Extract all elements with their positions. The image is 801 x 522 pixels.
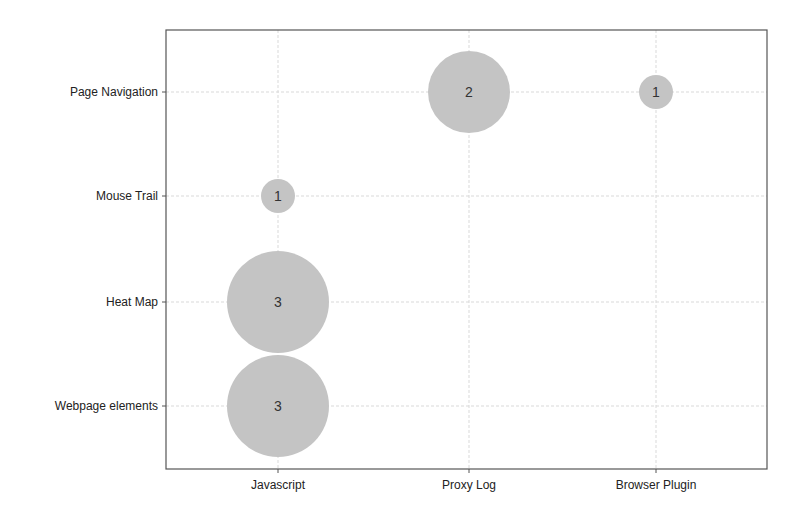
bubble: 3 [227,251,329,353]
bubble-value-label: 3 [274,398,282,414]
bubble-value-label: 1 [274,188,282,204]
y-tick-label: Heat Map [106,295,158,309]
bubble-value-label: 3 [274,294,282,310]
bubble: 1 [639,75,673,109]
y-axis: Webpage elementsHeat MapMouse TrailPage … [55,85,166,413]
y-tick-label: Webpage elements [55,399,158,413]
bubble: 3 [227,355,329,457]
x-axis: JavascriptProxy LogBrowser Plugin [251,469,696,492]
bubble: 2 [428,51,510,133]
x-tick-label: Proxy Log [442,478,496,492]
bubble-chart: 33121 Webpage elementsHeat MapMouse Trai… [0,0,801,522]
x-tick-label: Browser Plugin [616,478,697,492]
bubble: 1 [261,179,295,213]
bubbles: 33121 [227,51,673,457]
y-tick-label: Page Navigation [70,85,158,99]
bubble-value-label: 2 [465,84,473,100]
y-tick-label: Mouse Trail [96,189,158,203]
bubble-value-label: 1 [652,84,660,100]
x-tick-label: Javascript [251,478,306,492]
